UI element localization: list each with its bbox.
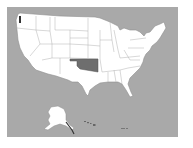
us-map (0, 0, 193, 148)
contiguous-us (16, 13, 166, 97)
state-hawaii[interactable] (84, 121, 96, 126)
territories (121, 128, 128, 129)
puget-sound (19, 16, 21, 23)
